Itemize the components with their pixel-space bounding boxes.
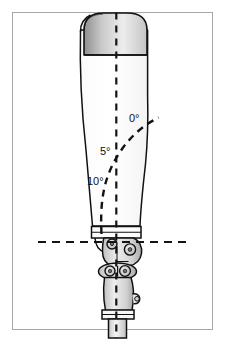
socket-outline xyxy=(80,30,148,226)
angle-label-5: 5° xyxy=(100,145,111,157)
shank-lug-bolt xyxy=(135,297,140,302)
prosthetic-alignment-diagram: 0° 5° 10° xyxy=(0,0,228,346)
angle-label-0: 0° xyxy=(129,112,140,124)
angle-label-10: 10° xyxy=(87,175,104,187)
pylon-tube xyxy=(109,319,127,338)
page-root: 0° 5° 10° xyxy=(0,0,228,346)
adapter-bolt-upper-right-center xyxy=(128,248,132,252)
shank-housing-group xyxy=(102,278,140,339)
adapter-bolt-lower-left-center xyxy=(108,269,111,272)
shank-housing xyxy=(104,278,134,311)
adapter-bolt-lower-right-center xyxy=(123,269,127,273)
alignment-adapter-group xyxy=(99,238,142,280)
